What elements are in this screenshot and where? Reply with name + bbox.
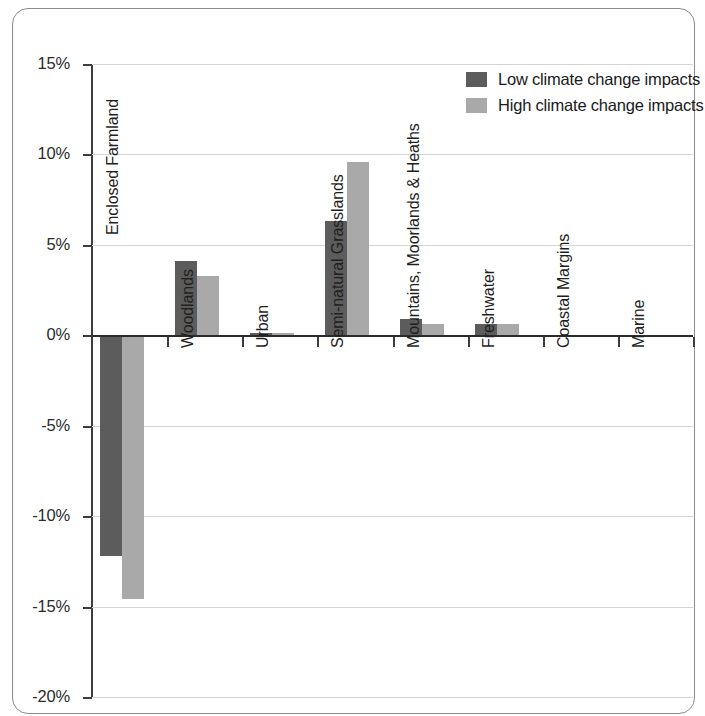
category-label: Coastal Margins bbox=[555, 234, 573, 348]
legend-swatch-low bbox=[466, 72, 487, 87]
y-tick-label: 5% bbox=[14, 235, 70, 254]
bar bbox=[497, 324, 519, 335]
gridline bbox=[92, 64, 693, 65]
y-tick-label: -10% bbox=[14, 506, 70, 525]
y-tick-mark bbox=[83, 516, 92, 518]
gridline bbox=[92, 154, 693, 155]
gridline bbox=[92, 697, 693, 698]
x-tick-mark bbox=[393, 337, 395, 347]
bar bbox=[122, 335, 144, 599]
bar-chart: 15%10%5%0%-5%-10%-15%-20% Enclosed Farml… bbox=[0, 0, 705, 716]
x-tick-mark bbox=[618, 337, 620, 347]
y-axis-line bbox=[91, 64, 93, 698]
gridline bbox=[92, 516, 693, 517]
legend-item-low: Low climate change impacts bbox=[466, 66, 704, 92]
x-tick-mark bbox=[543, 337, 545, 347]
category-label: Freshwater bbox=[480, 269, 498, 348]
y-tick-mark bbox=[83, 154, 92, 156]
category-label: Woodlands bbox=[179, 269, 197, 348]
y-tick-mark bbox=[83, 697, 92, 699]
x-tick-mark bbox=[468, 337, 470, 347]
category-label: Urban bbox=[254, 305, 272, 348]
y-tick-label: 15% bbox=[14, 54, 70, 73]
legend-item-high: High climate change impacts bbox=[466, 92, 704, 118]
y-tick-label: 10% bbox=[14, 144, 70, 163]
legend-label-low: Low climate change impacts bbox=[498, 70, 700, 89]
category-label: Semi-natural Grasslands bbox=[329, 174, 347, 348]
x-tick-mark bbox=[167, 337, 169, 347]
bar bbox=[422, 324, 444, 336]
y-tick-mark bbox=[83, 426, 92, 428]
bar bbox=[197, 276, 219, 336]
x-tick-mark bbox=[317, 337, 319, 347]
y-tick-mark bbox=[83, 245, 92, 247]
y-tick-label: -15% bbox=[14, 597, 70, 616]
category-label: Mountains, Moorlands & Heaths bbox=[405, 123, 423, 348]
gridline bbox=[92, 607, 693, 608]
y-tick-mark bbox=[83, 335, 92, 337]
bar bbox=[347, 162, 369, 336]
y-tick-label: -20% bbox=[14, 687, 70, 706]
gridline bbox=[92, 426, 693, 427]
y-tick-mark bbox=[83, 64, 92, 66]
x-tick-mark bbox=[242, 337, 244, 347]
y-tick-label: -5% bbox=[14, 416, 70, 435]
legend-swatch-high bbox=[466, 98, 487, 113]
gridline bbox=[92, 245, 693, 246]
y-tick-mark bbox=[83, 607, 92, 609]
y-tick-label: 0% bbox=[14, 325, 70, 344]
x-tick-mark bbox=[693, 337, 695, 347]
chart-legend: Low climate change impacts High climate … bbox=[466, 66, 704, 118]
bar bbox=[100, 335, 122, 556]
category-label: Marine bbox=[630, 300, 648, 348]
legend-label-high: High climate change impacts bbox=[498, 96, 704, 115]
category-label: Enclosed Farmland bbox=[104, 99, 122, 235]
